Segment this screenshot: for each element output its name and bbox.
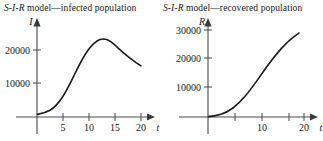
caption-model-label: S-I-R (163, 3, 184, 13)
y-tick-label-20000: 20000 (176, 53, 201, 64)
y-tick-label-10000: 10000 (5, 78, 30, 89)
caption-text: model—recovered population (184, 3, 303, 13)
data-curve-recovered (209, 33, 300, 116)
x-tick-label-20: 20 (136, 122, 146, 133)
x-tick-label-5: 5 (61, 122, 66, 133)
data-curve-infected (38, 39, 142, 114)
x-axis-arrow-icon (147, 114, 155, 121)
x-axis-label: t (320, 122, 323, 133)
x-axis-arrow-icon (310, 114, 318, 121)
x-tick-label-20: 20 (299, 122, 309, 133)
y-tick-label-20000: 20000 (5, 45, 30, 56)
plot-area-recovered: 10000 20000 30000 10 20 R t (161, 14, 323, 141)
figure-caption-infected: S-I-R model—infected population (4, 2, 162, 14)
caption-text: model—infected population (25, 3, 137, 13)
plot-area-infected: 10000 20000 5 10 15 20 I t (0, 14, 162, 141)
caption-model-label: S-I-R (4, 3, 25, 13)
y-axis-label: I (28, 16, 33, 27)
figure-caption-recovered: S-I-R model—recovered population (163, 2, 321, 14)
y-axis-label: R (198, 16, 205, 27)
x-tick-label-10: 10 (84, 122, 94, 133)
x-tick-label-10: 10 (257, 122, 267, 133)
figure-recovered-population: S-I-R model—recovered population 10000 2… (161, 0, 323, 141)
x-tick-label-15: 15 (110, 122, 120, 133)
x-axis-label: t (157, 122, 160, 133)
y-tick-label-30000: 30000 (176, 25, 201, 36)
y-axis-arrow-icon (204, 18, 211, 27)
figure-infected-population: S-I-R model—infected population 10000 20… (0, 0, 162, 141)
y-tick-label-10000: 10000 (176, 82, 201, 93)
y-axis-arrow-icon (33, 18, 40, 27)
